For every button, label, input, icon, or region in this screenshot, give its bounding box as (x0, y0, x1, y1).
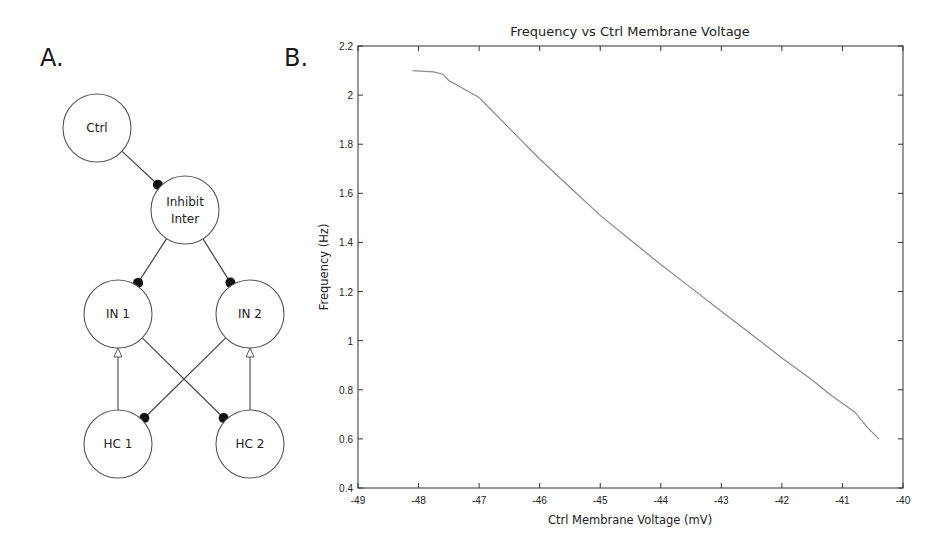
x-axis-ticks: -49-48-47-46-45-44-43-42-41-40 (351, 46, 911, 506)
plot-area (358, 46, 903, 488)
y-tick-label: 1.6 (339, 188, 353, 199)
y-tick-label: 0.4 (339, 483, 353, 494)
x-tick-label: -40 (896, 495, 911, 506)
y-tick-label: 0.8 (339, 385, 353, 396)
x-axis-title: Ctrl Membrane Voltage (mV) (548, 513, 712, 527)
x-tick-label: -41 (835, 495, 850, 506)
y-tick-label: 1.4 (339, 237, 353, 248)
x-tick-label: -42 (775, 495, 790, 506)
x-tick-label: -46 (532, 495, 547, 506)
y-tick-label: 2 (347, 90, 353, 101)
frequency-chart: Frequency vs Ctrl Membrane Voltage -49-4… (0, 0, 947, 547)
x-tick-label: -47 (472, 495, 487, 506)
x-tick-label: -48 (411, 495, 426, 506)
y-tick-label: 1 (347, 336, 353, 347)
x-tick-label: -43 (714, 495, 729, 506)
chart-title: Frequency vs Ctrl Membrane Voltage (510, 24, 750, 39)
y-tick-label: 1.8 (339, 139, 353, 150)
x-tick-label: -44 (654, 495, 669, 506)
x-tick-label: -45 (593, 495, 608, 506)
y-axis-ticks: 0.40.60.811.21.41.61.822.2 (339, 41, 903, 494)
y-axis-title: Frequency (Hz) (317, 224, 331, 311)
x-tick-label: -49 (351, 495, 366, 506)
y-tick-label: 2.2 (339, 41, 353, 52)
data-line (413, 71, 879, 439)
y-tick-label: 0.6 (339, 434, 353, 445)
y-tick-label: 1.2 (339, 287, 353, 298)
